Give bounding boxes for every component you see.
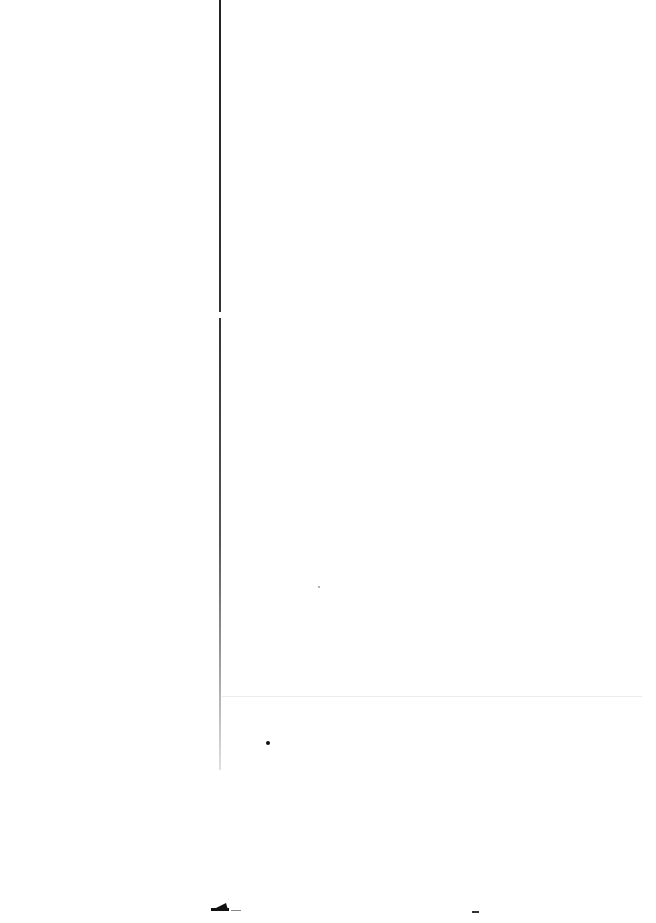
vertical-rule-gap [218,312,222,318]
vertical-rule [219,0,221,770]
horizontal-rule [222,696,642,697]
speck-mark [318,586,320,588]
speck-mark [266,741,270,745]
dash-mark [231,910,241,911]
shoe-mark-base [211,908,229,911]
dash-mark [472,911,479,913]
